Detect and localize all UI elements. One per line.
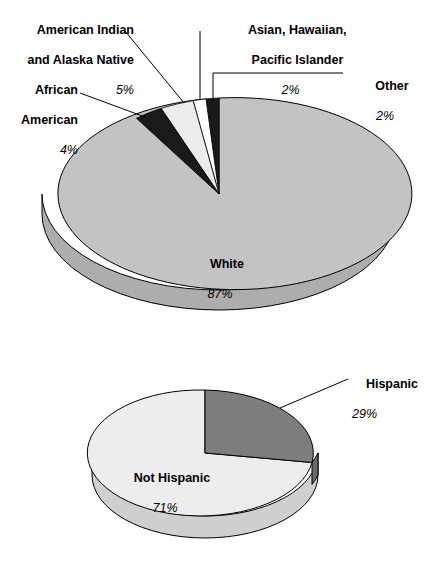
label-white: White 87% (184, 242, 256, 332)
label-african-american-line2: American (21, 113, 78, 127)
label-not-hispanic-line1: Not Hispanic (134, 471, 210, 485)
label-african-american: African American 4% (0, 68, 78, 188)
label-asian: Asian, Hawaiian, Pacific Islander 2% (218, 8, 363, 128)
label-african-american-line1: African (35, 83, 78, 97)
label-white-pct: 87% (184, 287, 256, 302)
label-not-hispanic-pct: 71% (112, 501, 218, 516)
label-white-line1: White (210, 257, 244, 271)
label-asian-line2: Pacific Islander (252, 53, 344, 67)
race-ethnicity-pie-figure: American Indian and Alaska Native 5% Afr… (0, 0, 428, 566)
label-hispanic-line1: Hispanic (366, 377, 418, 391)
label-american-indian-line2: and Alaska Native (27, 53, 134, 67)
label-asian-line1: Asian, Hawaiian, (248, 23, 347, 37)
label-hispanic-pct: 29% (352, 407, 428, 422)
label-not-hispanic: Not Hispanic 71% (112, 456, 218, 546)
label-other-pct: 2% (348, 109, 422, 124)
label-american-indian-line1: American Indian (37, 23, 134, 37)
label-other-line1: Other (375, 79, 408, 93)
label-hispanic: Hispanic 29% (352, 362, 428, 452)
leader-line-hispanic (280, 379, 348, 408)
label-other: Other 2% (348, 64, 422, 154)
label-african-american-pct: 4% (0, 143, 78, 158)
label-asian-pct: 2% (218, 83, 363, 98)
